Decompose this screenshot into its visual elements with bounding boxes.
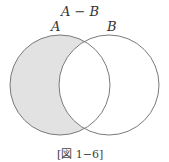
a-minus-b-shaded-region bbox=[10, 35, 110, 135]
venn-svg bbox=[0, 0, 169, 162]
figure-caption: [図 1−6] bbox=[57, 145, 103, 161]
venn-diagram-figure: A − B A B [図 1−6] bbox=[0, 0, 169, 162]
